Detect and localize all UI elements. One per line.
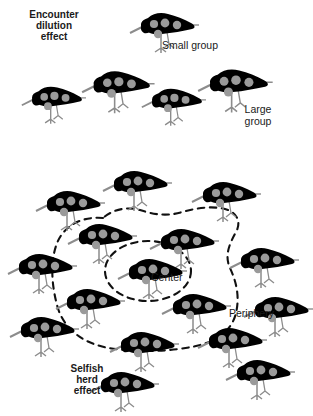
bird-selfish-herd-flock-3: [190, 177, 262, 231]
bird-selfish-herd-flock-16: [224, 355, 296, 409]
bird-selfish-herd-flock-7: [228, 243, 300, 297]
label-center: Center: [151, 272, 183, 284]
label-large-group: Large group: [236, 104, 280, 128]
bird-selfish-herd-flock-1: [101, 166, 173, 220]
bird-selfish-herd-flock-12: [8, 312, 80, 366]
label-periphery: Periphery: [229, 308, 274, 320]
bird-large-group-1: [20, 82, 87, 132]
label-selfish-herd-effect: Selfish herd effect: [55, 363, 119, 397]
bird-small-group-1: [128, 8, 200, 62]
label-encounter-dilution-effect: Encounter dilution effect: [12, 9, 96, 43]
label-small-group: Small group: [162, 40, 218, 52]
